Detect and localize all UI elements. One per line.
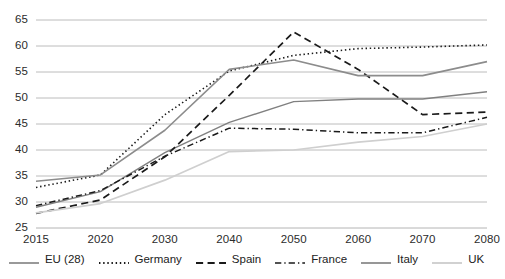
legend-label: France (311, 253, 347, 265)
y-tick-label: 35 (2, 169, 28, 181)
legend-swatch-icon (361, 254, 391, 264)
x-tick-label: 2015 (11, 233, 61, 245)
legend-item-spain[interactable]: Spain (196, 253, 261, 265)
legend-label: Germany (135, 253, 182, 265)
series-line-france (36, 117, 487, 205)
y-tick-label: 25 (2, 221, 28, 233)
legend-item-italy[interactable]: Italy (361, 253, 418, 265)
x-tick-label: 2030 (140, 233, 190, 245)
legend-swatch-icon (275, 254, 305, 264)
x-tick-label: 2060 (333, 233, 383, 245)
series-line-uk (36, 124, 487, 213)
y-tick-label: 60 (2, 39, 28, 51)
series-line-germany (36, 45, 487, 187)
x-tick-label: 2070 (398, 233, 448, 245)
y-tick-label: 40 (2, 143, 28, 155)
legend-item-germany[interactable]: Germany (99, 253, 182, 265)
x-tick-label: 2020 (75, 233, 125, 245)
legend-label: Spain (232, 253, 261, 265)
legend-label: EU (28) (45, 253, 85, 265)
series-line-eu-28 (36, 92, 487, 207)
legend-swatch-icon (196, 254, 226, 264)
legend-item-france[interactable]: France (275, 253, 347, 265)
y-tick-label: 65 (2, 13, 28, 25)
y-tick-label: 45 (2, 117, 28, 129)
y-tick-label: 55 (2, 65, 28, 77)
y-tick-label: 50 (2, 91, 28, 103)
y-tick-label: 30 (2, 195, 28, 207)
x-tick-label: 2050 (269, 233, 319, 245)
legend-swatch-icon (432, 254, 462, 264)
legend-swatch-icon (9, 254, 39, 264)
legend-swatch-icon (99, 254, 129, 264)
x-tick-label: 2040 (204, 233, 254, 245)
series-lines (36, 32, 487, 213)
series-line-spain (36, 32, 487, 213)
series-line-italy (36, 60, 487, 181)
legend-item-eu-28[interactable]: EU (28) (9, 253, 85, 265)
legend-item-uk[interactable]: UK (432, 253, 484, 265)
x-tick-label: 2080 (462, 233, 505, 245)
chart-legend: EU (28)GermanySpainFranceItalyUK (0, 246, 493, 272)
legend-label: Italy (397, 253, 418, 265)
legend-label: UK (468, 253, 484, 265)
